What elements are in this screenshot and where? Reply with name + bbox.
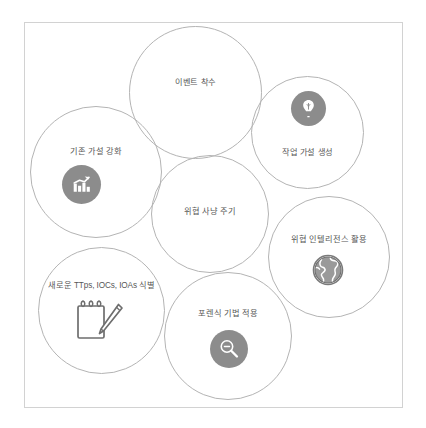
- lightbulb-icon: [291, 91, 326, 126]
- circle-node-hypothesis-generation[interactable]: 작업 가설 생성: [251, 76, 364, 189]
- circle-node-identify-ttps[interactable]: 새로운 TTps, IOCs, IOAs 식별: [38, 247, 165, 374]
- node-label-hypothesis-reinforcement: 기존 가설 강화: [31, 147, 161, 157]
- bar-chart-arrow-icon: [62, 165, 101, 204]
- node-label-event-initiation: 이벤트 착수: [130, 78, 261, 88]
- magnifier-icon: [210, 330, 248, 368]
- node-label-hypothesis-generation: 작업 가설 생성: [252, 148, 363, 158]
- circle-node-threat-intelligence[interactable]: 위협 인텔리전스 활용: [268, 196, 390, 318]
- node-label-identify-ttps: 새로운 TTps, IOCs, IOAs 식별: [39, 281, 164, 291]
- node-label-hunting-cycle: 위협 사냥 주기: [152, 207, 268, 217]
- globe-icon: [311, 253, 345, 287]
- venn-circle-canvas: 이벤트 착수 작업 가설 생성 기존 가설 강화: [0, 0, 426, 428]
- circle-node-forensics[interactable]: 포렌식 기법 적용: [164, 272, 292, 400]
- circle-node-hunting-cycle[interactable]: 위협 사냥 주기: [151, 155, 269, 273]
- node-label-threat-intelligence: 위협 인텔리전스 활용: [269, 235, 389, 245]
- circle-node-hypothesis-reinforcement[interactable]: 기존 가설 강화: [30, 106, 162, 238]
- node-label-forensics: 포렌식 기법 적용: [165, 309, 291, 319]
- clipboard-pencil-icon: [74, 298, 126, 342]
